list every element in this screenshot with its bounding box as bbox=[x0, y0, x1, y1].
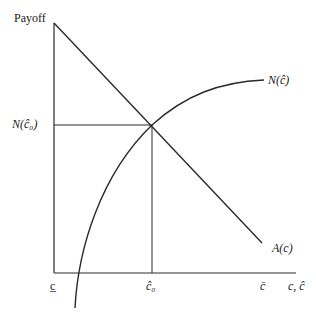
x-axis-label: c, ĉ bbox=[288, 280, 305, 292]
curve-A bbox=[54, 23, 262, 243]
diagram-canvas bbox=[0, 0, 316, 327]
curve-N bbox=[75, 80, 264, 308]
y-tick-label: N(ĉ₀) bbox=[12, 118, 38, 130]
x-tick-c-bar: c̄ bbox=[260, 280, 265, 292]
y-axis-label: Payoff bbox=[14, 12, 46, 24]
curve-A-label: A(c) bbox=[272, 242, 293, 254]
curve-N-label: N(ĉ) bbox=[268, 74, 289, 86]
payoff-diagram: Payoff N(ĉ₀) N(ĉ) A(c) c̲ ĉ₀ c̄ c, ĉ bbox=[0, 0, 316, 327]
x-tick-c-hat-0: ĉ₀ bbox=[146, 280, 156, 292]
x-tick-c-lower: c̲ bbox=[50, 280, 55, 292]
